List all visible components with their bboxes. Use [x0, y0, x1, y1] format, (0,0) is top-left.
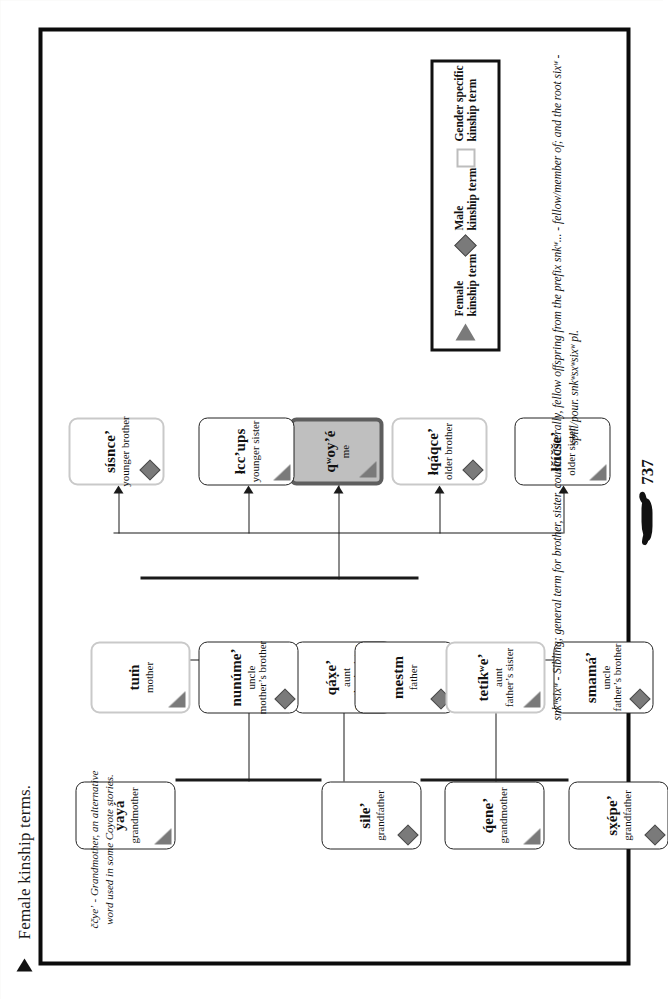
node-qene-term: q́eneʼ	[480, 797, 496, 833]
node-younger-sister-term: łccʼups	[232, 428, 248, 474]
legend-female-line1: Female	[452, 253, 465, 316]
female-triangle-icon	[273, 464, 290, 480]
node-mestm-term: mestm	[390, 656, 406, 699]
node-smama-gloss: uncle	[600, 665, 612, 689]
node-tetikwe-gloss: aunt	[492, 668, 504, 687]
connector-to-older-brother	[439, 491, 440, 533]
node-tetikwe-gloss2: father’s sister	[503, 647, 515, 706]
male-diamond-icon	[454, 234, 477, 257]
sibling-footnote: snkʷsixʷ - Sibling; general term for bro…	[548, 51, 581, 723]
node-nunume-gloss: uncle	[245, 665, 257, 689]
arrow-to-ego	[333, 485, 343, 493]
female-triangle-icon	[589, 464, 606, 480]
node-me-gloss: me	[339, 444, 351, 457]
connector-parents-spine	[140, 576, 418, 579]
legend-item-gender-specific: Gender specific kinship term	[452, 65, 478, 167]
legend-gender-line2: kinship term	[465, 65, 478, 141]
title-marker-icon	[16, 958, 32, 971]
female-triangle-icon	[523, 828, 540, 844]
node-tum[interactable]: tuṁ mother	[90, 641, 190, 713]
legend-box: Female kinship term Male kinship term Ge…	[430, 59, 500, 351]
node-nunume-gloss2: mother’s brother	[256, 640, 268, 713]
square-icon	[456, 148, 475, 167]
male-diamond-icon	[463, 460, 482, 479]
node-sxepe-gloss: grandfather	[621, 790, 633, 841]
legend-male-line2: kinship term	[465, 167, 478, 230]
node-tum-gloss: mother	[143, 661, 155, 692]
female-triangle-icon	[523, 691, 540, 707]
node-younger-brother-term: sísnceʼ	[102, 429, 118, 472]
node-me-term: qʷoyʼé	[322, 430, 338, 472]
node-qaxe-gloss: aunt	[340, 668, 352, 687]
node-mestm-gloss: father	[407, 664, 419, 690]
legend-item-female: Female kinship term	[452, 253, 478, 340]
node-yaya-gloss: grandmother	[128, 787, 140, 843]
male-diamond-icon	[398, 825, 417, 844]
node-sile-gloss: grandfather	[374, 790, 386, 841]
node-older-brother-gloss: older brother	[442, 422, 454, 479]
node-nunume[interactable]: nunúmeʼ uncle mother’s brother	[198, 641, 298, 713]
male-diamond-icon	[275, 689, 294, 708]
connector-to-younger-sister	[248, 491, 249, 533]
node-younger-brother[interactable]: sísnceʼ younger brother	[68, 417, 164, 485]
node-tetikwe[interactable]: tetíkʷeʼ aunt father’s sister	[445, 641, 545, 713]
female-triangle-icon	[455, 323, 475, 340]
node-tetikwe-term: tetíkʷeʼ	[475, 653, 491, 701]
page-footer: 737	[637, 0, 658, 999]
coyote-note: ččyeʼ - Grandmother, an alternative word…	[86, 761, 116, 937]
node-tum-term: tuṁ	[126, 664, 142, 690]
female-triangle-icon	[168, 691, 185, 707]
node-nunume-term: nunúmeʼ	[228, 648, 244, 706]
node-younger-brother-gloss: younger brother	[119, 416, 131, 487]
legend-gender-line1: Gender specific	[452, 65, 465, 141]
node-qene[interactable]: q́eneʼ grandmother	[444, 781, 544, 849]
node-me-ego[interactable]: qʷoyʼé me	[289, 417, 383, 485]
node-younger-sister[interactable]: łccʼups younger sister	[198, 417, 294, 485]
node-smama-term: smamáʼ	[583, 651, 599, 702]
legend-female-line2: kinship term	[465, 253, 478, 316]
page-number: 737	[637, 459, 657, 485]
coyote-glyph-icon	[641, 497, 652, 541]
node-sxepe-term: sx̣épeʼ	[604, 795, 620, 836]
node-sile-term: sileʼ	[357, 802, 373, 828]
legend-male-line1: Male	[452, 167, 465, 230]
node-sile[interactable]: sileʼ grandfather	[321, 781, 421, 849]
connector-sibling-bus	[113, 532, 563, 533]
page-title: Female kinship terms.	[14, 784, 34, 939]
node-older-brother-term: łqáqceʼ	[425, 427, 441, 474]
legend-item-male: Male kinship term	[452, 167, 478, 253]
male-diamond-icon	[140, 460, 159, 479]
connector-to-younger-brother	[118, 491, 119, 533]
node-qaxe-term: qáx̣eʼ	[323, 659, 339, 695]
node-younger-sister-gloss: younger sister	[249, 420, 261, 482]
node-mestm[interactable]: mestm father	[354, 641, 454, 713]
node-qene-gloss: grandmother	[497, 787, 509, 843]
female-triangle-icon	[359, 461, 376, 477]
node-older-brother[interactable]: łqáqceʼ older brother	[391, 417, 487, 485]
female-triangle-icon	[154, 828, 171, 844]
node-smama-gloss2: father’s brother	[611, 643, 623, 711]
